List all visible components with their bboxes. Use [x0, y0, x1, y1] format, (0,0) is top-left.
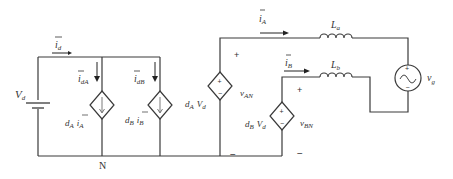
svg-text:+: +	[218, 78, 222, 85]
dependent-voltage-source-a: + −	[208, 72, 232, 100]
circuit-diagram: Vd id idA dAiA idB dBiB N	[0, 0, 453, 179]
svg-text:iB: iB	[285, 57, 293, 70]
svg-text:iA: iA	[259, 13, 267, 26]
svg-text:idB: idB	[134, 73, 145, 86]
plus-sign: +	[297, 85, 302, 95]
label-vBN: vBN	[300, 118, 313, 130]
node-n-label: N	[99, 160, 106, 171]
minus-sign: −	[230, 149, 236, 160]
svg-text:−: −	[406, 84, 410, 91]
svg-text:idA: idA	[78, 73, 89, 86]
label-dB-iB: dBiB	[125, 115, 144, 127]
dependent-current-source-a	[90, 91, 114, 119]
label-dA-Vd: dAVd	[185, 99, 206, 111]
minus-sign: −	[297, 148, 303, 159]
label-dB-Vd: dBVd	[245, 119, 266, 131]
inductor-la	[320, 34, 352, 38]
svg-text:−: −	[280, 120, 284, 127]
current-iB-label: iB	[285, 55, 293, 70]
inductor-lb	[320, 73, 352, 77]
current-id-label: id	[55, 37, 62, 52]
arrow-right-icon	[52, 51, 72, 55]
label-vAN: vAN	[240, 88, 253, 100]
svg-text:+: +	[405, 65, 409, 72]
label-dA-iA: dAiA	[65, 118, 84, 130]
dependent-current-source-b	[148, 91, 172, 119]
label-la: La	[330, 19, 341, 32]
arrow-down-icon	[152, 62, 158, 82]
dependent-voltage-source-b: + −	[270, 102, 294, 130]
current-idA-label: idA	[78, 71, 89, 86]
plus-sign: +	[234, 50, 239, 60]
svg-text:+: +	[280, 108, 284, 115]
arrow-right-icon	[260, 31, 289, 36]
svg-text:id: id	[55, 39, 62, 52]
svg-text:−: −	[218, 90, 222, 97]
ac-source-icon: + −	[395, 65, 421, 91]
battery-icon	[26, 103, 50, 108]
label-vd: Vd	[15, 88, 26, 102]
label-vg: vg	[427, 72, 435, 86]
arrow-down-icon	[94, 62, 100, 82]
current-idB-label: idB	[134, 71, 145, 86]
label-lb: Lb	[330, 59, 341, 72]
current-iA-label: iA	[259, 10, 267, 26]
